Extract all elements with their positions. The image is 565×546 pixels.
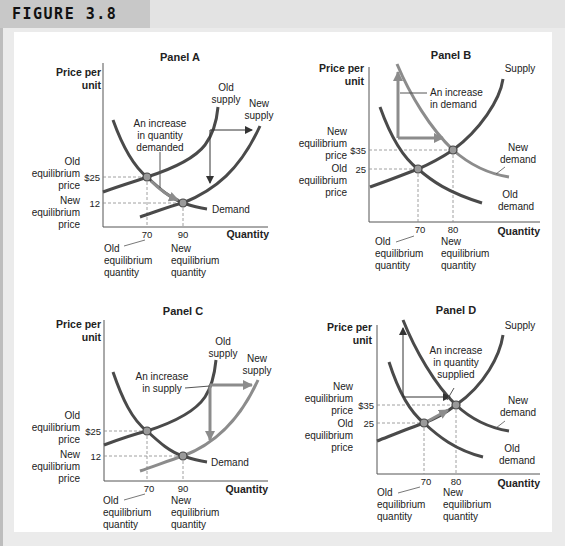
panel-a-old-price-label-2: equilibrium <box>32 168 80 179</box>
panel-c-demand-label: Demand <box>211 457 249 468</box>
panel-a-old-qty-label-2: equilibrium <box>104 255 152 266</box>
panel-c-title: Panel C <box>163 305 203 317</box>
panel-d-new-price-label-3: price <box>331 405 353 416</box>
panel-b-new-demand-label-2: demand <box>500 154 536 165</box>
panel-c-shift-label-2: in supply <box>142 383 181 394</box>
panel-c-old-qty-label-3: quantity <box>103 519 138 530</box>
panel-b-new-price-label-3: price <box>325 150 347 161</box>
panel-c-new-price-label-3: price <box>58 473 80 484</box>
panel-a-title: Panel A <box>160 51 200 63</box>
panel-c-new-qty-label-2: equilibrium <box>171 507 219 518</box>
panel-b-ylabel-1: Price per <box>319 62 364 74</box>
panel-d-ytick-25: 25 <box>363 418 374 429</box>
panel-d-ylabel-2: unit <box>353 334 373 346</box>
panel-d-new-price-label-2: equilibrium <box>305 393 353 404</box>
panel-a: Panel A Price per unit Old supply New su… <box>32 51 274 278</box>
panel-d: Panel D Price per unit Supply An increas… <box>305 304 541 522</box>
panel-c-old-price-label-1: Old <box>64 410 80 421</box>
panel-c-callout-line <box>185 386 210 388</box>
panel-b-old-qty-label-2: equilibrium <box>375 248 423 259</box>
panel-d-old-price-label-2: equilibrium <box>305 430 353 441</box>
panel-b: Panel B Price per unit Supply An increas… <box>299 49 541 271</box>
panel-a-shift-label-3: demanded <box>136 142 183 153</box>
panel-c-new-qty-label-1: New <box>171 495 192 506</box>
panel-d-old-qty-label-3: quantity <box>377 511 412 522</box>
panel-a-old-qty-label-1: Old <box>104 243 120 254</box>
panel-c-ytick-12: 12 <box>90 451 101 462</box>
panel-c-new-supply-label-1: New <box>247 353 268 364</box>
panel-c-ylabel-1: Price per <box>56 318 101 330</box>
panel-d-shift-label-2: in quantity <box>433 357 479 368</box>
panel-a-shift-label-2: in quantity <box>137 130 183 141</box>
panel-d-old-price-label-3: price <box>331 442 353 453</box>
panel-a-xtick-90: 90 <box>178 229 189 240</box>
panel-a-old-price-label-3: price <box>58 180 80 191</box>
panel-b-new-demand-label-1: New <box>508 142 529 153</box>
panel-b-supply-label: Supply <box>505 63 536 74</box>
panel-a-ylabel-1: Price per <box>56 66 101 78</box>
panel-a-ytick-25: $25 <box>84 172 100 183</box>
panel-b-xtick-70: 70 <box>415 224 426 235</box>
panel-c-new-price-label-2: equilibrium <box>32 461 80 472</box>
panel-d-new-demand-label-2: demand <box>500 407 536 418</box>
panel-b-xlabel: Quantity <box>497 225 540 237</box>
panel-d-title: Panel D <box>436 304 476 316</box>
panel-b-title: Panel B <box>431 49 471 61</box>
panel-d-shift-label-3: supplied <box>437 369 474 380</box>
panel-d-ylabel-1: Price per <box>327 321 372 333</box>
panel-d-old-equilibrium-point <box>420 419 428 427</box>
panel-d-old-qty-label-1: Old <box>377 487 393 498</box>
panel-c: Panel C Price per unit Old supply New su… <box>32 305 272 530</box>
panel-c-old-qty-label-1: Old <box>103 495 119 506</box>
panel-b-ytick-35: $35 <box>350 145 366 156</box>
panel-a-old-equilibrium-point <box>143 173 151 181</box>
panel-c-xtick-70: 70 <box>144 483 155 494</box>
panel-a-new-qty-label-1: New <box>171 243 192 254</box>
panel-b-new-price-label-2: equilibrium <box>299 138 347 149</box>
panel-b-shift-label-2: in demand <box>430 99 477 110</box>
panel-a-new-supply-label-2: supply <box>245 110 274 121</box>
panel-b-old-qty-label-1: Old <box>375 236 391 247</box>
panel-c-old-price-label-2: equilibrium <box>32 422 80 433</box>
panel-b-old-price-label-3: price <box>325 187 347 198</box>
panel-b-shift-label-1: An increase <box>430 87 483 98</box>
panel-d-new-price-label-1: New <box>333 381 354 392</box>
panel-c-xlabel: Quantity <box>225 483 268 495</box>
panel-c-ylabel-2: unit <box>82 331 102 343</box>
panel-a-new-supply-label-1: New <box>249 98 270 109</box>
panel-d-movement-arrow <box>428 410 448 421</box>
panel-a-shift-label-1: An increase <box>134 118 187 129</box>
panel-b-ylabel-2: unit <box>345 75 365 87</box>
panel-d-new-qty-label-1: New <box>443 487 464 498</box>
panel-b-new-qty-label-1: New <box>441 236 462 247</box>
panel-a-old-price-label-1: Old <box>64 156 80 167</box>
panel-d-ytick-35: $35 <box>358 400 374 411</box>
panel-b-new-equilibrium-point <box>449 146 457 154</box>
panel-a-old-supply-label-1: Old <box>218 82 234 93</box>
panel-d-old-demand-label-1: Old <box>504 443 520 454</box>
panel-b-old-price-label-2: equilibrium <box>299 175 347 186</box>
panel-d-supply-label: Supply <box>505 320 536 331</box>
panel-d-new-demand-label-1: New <box>508 395 529 406</box>
panel-a-new-qty-label-2: equilibrium <box>171 255 219 266</box>
panel-a-new-price-label-2: equilibrium <box>32 207 80 218</box>
panel-a-new-qty-label-3: quantity <box>171 267 206 278</box>
panel-b-new-qty-label-2: equilibrium <box>441 248 489 259</box>
panel-d-old-price-label-1: Old <box>337 418 353 429</box>
panel-b-old-qty-label-3: quantity <box>375 260 410 271</box>
panel-d-new-qty-label-2: equilibrium <box>443 499 491 510</box>
panel-b-new-price-label-1: New <box>327 126 348 137</box>
panel-c-new-supply-label-2: supply <box>243 365 272 376</box>
panel-a-old-qty-label-3: quantity <box>104 267 139 278</box>
panel-c-old-qty-label-2: equilibrium <box>103 507 151 518</box>
panel-b-old-equilibrium-point <box>414 165 422 173</box>
panel-c-ytick-25: $25 <box>85 426 101 437</box>
figure-charts: Panel A Price per unit Old supply New su… <box>0 0 565 546</box>
panel-c-old-supply-label-1: Old <box>215 336 231 347</box>
panel-d-xtick-80: 80 <box>451 476 462 487</box>
panel-a-new-equilibrium-point <box>179 199 187 207</box>
panel-d-shift-label-1: An increase <box>430 345 483 356</box>
panel-a-xlabel: Quantity <box>226 228 269 240</box>
panel-b-ytick-25: 25 <box>355 164 366 175</box>
panel-c-old-equilibrium-point <box>143 427 151 435</box>
